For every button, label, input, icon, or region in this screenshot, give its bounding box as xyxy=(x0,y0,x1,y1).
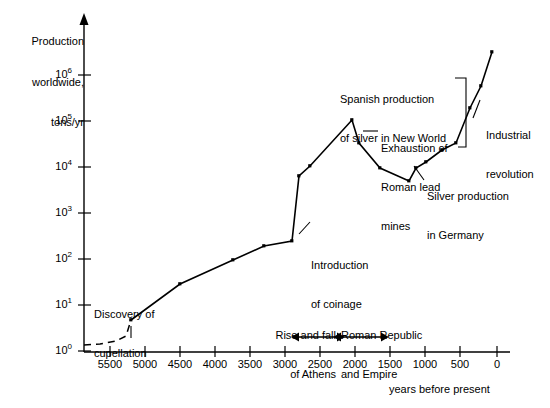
y-axis xyxy=(78,13,91,352)
annotation-leader-lines xyxy=(131,78,480,338)
leader-coinage xyxy=(299,222,310,234)
series-dashed-prehistoric xyxy=(84,320,131,345)
series-solid-production xyxy=(131,52,492,320)
leader-spanish-silver xyxy=(455,78,466,147)
series-markers xyxy=(129,50,493,321)
leader-german-silver xyxy=(414,166,424,180)
x-axis xyxy=(84,346,510,357)
leader-industrial xyxy=(473,100,480,118)
chart-canvas xyxy=(0,0,550,408)
y-axis-arrow-icon xyxy=(80,13,89,25)
silver-production-chart: Production worldwide, tons/yr 106 105 10… xyxy=(0,0,550,408)
